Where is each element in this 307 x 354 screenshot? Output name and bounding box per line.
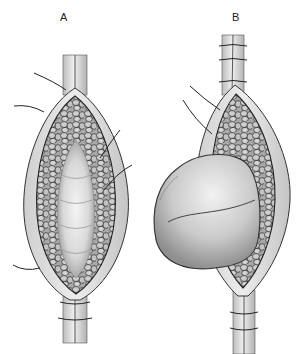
panel-b-drawing: [154, 35, 290, 354]
panel-a-bottom-tube: [58, 295, 92, 343]
panel-a-drawing: [13, 55, 132, 343]
surgical-illustration: [0, 0, 307, 354]
panel-b-top-tube: [219, 35, 247, 95]
panel-b-bottom-tube: [230, 290, 258, 354]
panel-b-herniated-mass: [154, 155, 260, 269]
